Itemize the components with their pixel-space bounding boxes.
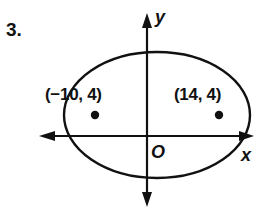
point-right-dot bbox=[215, 111, 223, 119]
point-left-dot bbox=[91, 111, 99, 119]
origin-label: O bbox=[151, 143, 165, 161]
x-axis-label: x bbox=[241, 146, 251, 164]
y-axis-up-arrow-icon bbox=[142, 13, 152, 28]
y-axis-label: y bbox=[155, 8, 165, 26]
y-axis-down-arrow-icon bbox=[142, 192, 152, 207]
x-axis-left-arrow-icon bbox=[39, 131, 55, 141]
problem-number: 3. bbox=[6, 20, 22, 39]
point-left-label: (−10, 4) bbox=[45, 86, 102, 103]
ellipse-diagram bbox=[0, 0, 268, 219]
point-right-label: (14, 4) bbox=[174, 86, 221, 103]
